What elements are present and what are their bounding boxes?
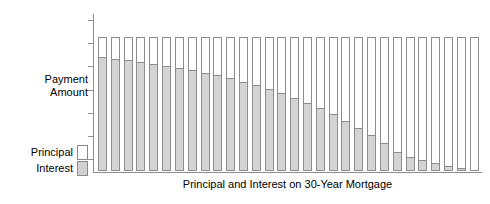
bar-series-container <box>95 14 482 171</box>
bar-segment-interest <box>317 108 324 170</box>
bar-segment-interest <box>278 93 285 170</box>
bar-segment-interest <box>137 62 144 170</box>
bar-column <box>252 37 261 171</box>
bar-column <box>162 37 171 171</box>
bar-segment-interest <box>99 57 106 170</box>
bar-segment-interest <box>176 68 183 170</box>
bar-column <box>124 37 133 171</box>
legend-swatch-principal <box>77 145 88 160</box>
bar-segment-interest <box>112 59 119 171</box>
bar-column <box>136 37 145 171</box>
x-axis-title: Principal and Interest on 30-Year Mortga… <box>93 177 482 191</box>
bar-column <box>431 37 440 171</box>
bar-segment-interest <box>240 82 247 170</box>
bar-segment-interest <box>342 121 349 170</box>
bar-column <box>239 37 248 171</box>
bar-segment-interest <box>355 128 362 170</box>
bar-segment-interest <box>214 75 221 170</box>
bar-column <box>149 37 158 171</box>
bar-segment-interest <box>150 64 157 170</box>
bar-column <box>329 37 338 171</box>
legend-swatch-interest <box>77 161 88 176</box>
bar-column <box>98 37 107 171</box>
bar-column <box>406 37 415 171</box>
legend-item-interest: Interest <box>4 160 88 176</box>
mortgage-amortization-chart: Payment Amount Principal Interest Princi… <box>0 0 490 204</box>
bar-column <box>213 37 222 171</box>
chart-legend: Principal Interest <box>4 144 88 176</box>
bar-segment-interest <box>227 78 234 170</box>
bar-column <box>303 37 312 171</box>
bar-column <box>188 37 197 171</box>
bar-column <box>354 37 363 171</box>
bar-segment-interest <box>407 157 414 171</box>
bar-column <box>444 37 453 171</box>
bar-column <box>367 37 376 171</box>
bar-segment-interest <box>368 135 375 170</box>
legend-label-principal: Principal <box>31 146 77 159</box>
bar-segment-interest <box>445 166 452 170</box>
bar-segment-interest <box>189 70 196 170</box>
bar-column <box>470 37 479 171</box>
bar-column <box>111 37 120 171</box>
bar-segment-interest <box>253 85 260 170</box>
plot-area <box>93 14 482 173</box>
bar-column <box>290 37 299 171</box>
y-axis-tick <box>88 20 94 21</box>
bar-segment-interest <box>202 73 209 171</box>
bar-column <box>201 37 210 171</box>
bar-segment-interest <box>419 160 426 170</box>
bar-segment-interest <box>125 60 132 170</box>
bar-segment-interest <box>291 98 298 170</box>
bar-column <box>265 37 274 171</box>
y-axis-title: Payment Amount <box>4 73 88 99</box>
bar-segment-interest <box>266 89 273 170</box>
bar-segment-interest <box>163 66 170 171</box>
bar-column <box>277 37 286 171</box>
bar-segment-interest <box>330 114 337 170</box>
y-axis-tick <box>88 90 94 91</box>
bar-column <box>418 37 427 171</box>
bar-column <box>175 37 184 171</box>
bar-segment-interest <box>394 152 401 170</box>
bar-segment-interest <box>458 168 465 170</box>
bar-segment-interest <box>432 163 439 170</box>
y-axis-tick <box>88 136 94 137</box>
bar-column <box>316 37 325 171</box>
bar-column <box>457 37 466 171</box>
bar-column <box>380 37 389 171</box>
bar-column <box>226 37 235 171</box>
legend-item-principal: Principal <box>4 144 88 160</box>
y-axis-tick <box>88 43 94 44</box>
y-axis-tick <box>88 113 94 114</box>
bar-column <box>341 37 350 171</box>
bar-segment-interest <box>381 143 388 170</box>
y-axis-tick <box>88 159 94 160</box>
y-axis-tick <box>88 66 94 67</box>
legend-label-interest: Interest <box>36 162 77 175</box>
bar-column <box>393 37 402 171</box>
bar-segment-interest <box>304 103 311 170</box>
